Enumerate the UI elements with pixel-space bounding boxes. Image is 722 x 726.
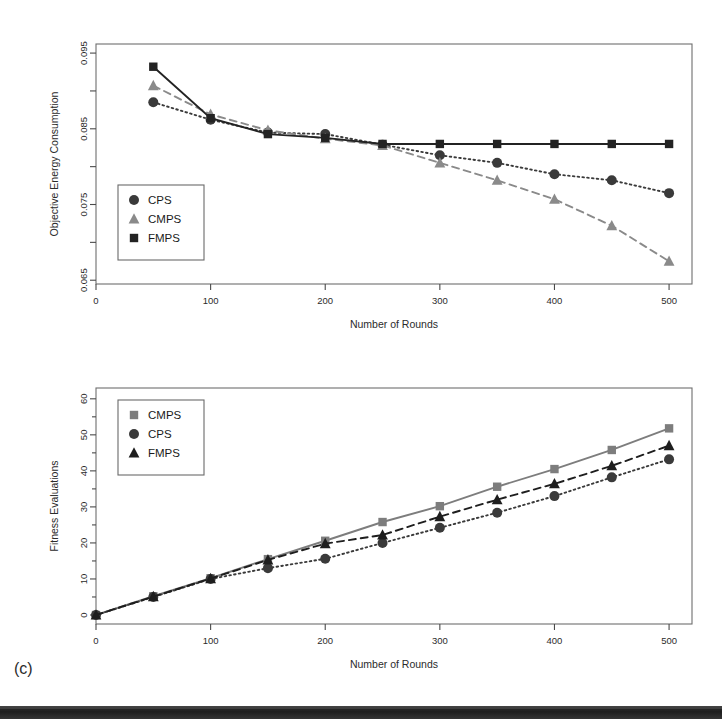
y-axis: 0.0650.0750.0850.095 xyxy=(79,41,97,292)
figure-caption: (c) xyxy=(14,660,33,678)
data-point-cmps xyxy=(664,255,675,265)
x-axis-tick-label: 400 xyxy=(547,295,563,306)
data-point-fmps xyxy=(493,140,501,148)
y-axis-tick-label: 50 xyxy=(79,430,90,441)
x-axis-title: Number of Rounds xyxy=(350,658,438,670)
data-point-cmps xyxy=(436,502,444,510)
data-point-cps xyxy=(549,169,559,179)
y-axis-title: Objective Energy Consumption xyxy=(48,91,60,236)
data-point-fmps xyxy=(436,140,444,148)
data-point-fmps xyxy=(550,140,558,148)
y-axis: 0102030405060 xyxy=(79,394,97,618)
x-axis-tick-label: 100 xyxy=(203,295,219,306)
figure-container: 0.0650.0750.0850.0950100200300400500Numb… xyxy=(0,0,722,726)
series-line-cps xyxy=(153,102,669,193)
y-axis-tick-label: 0.075 xyxy=(79,193,90,217)
series-line-cmps xyxy=(153,86,669,262)
chart-bottom-canvas: 01020304050600100200300400500Number of R… xyxy=(0,368,722,698)
x-axis-tick-label: 300 xyxy=(432,295,448,306)
x-axis-tick-label: 500 xyxy=(661,295,677,306)
data-point-cps xyxy=(664,454,674,464)
data-point-cmps xyxy=(493,483,501,491)
legend-label-cps: CPS xyxy=(148,194,172,206)
y-axis-tick-label: 60 xyxy=(79,394,90,405)
data-point-cps xyxy=(664,188,674,198)
y-axis-tick-label: 40 xyxy=(79,466,90,477)
y-axis-tick-label: 0.095 xyxy=(79,41,90,65)
legend-marker-cps xyxy=(129,429,139,439)
data-point-fmps xyxy=(321,134,329,142)
data-point-cmps xyxy=(665,424,673,432)
chart-top-canvas: 0.0650.0750.0850.0950100200300400500Numb… xyxy=(0,18,722,358)
data-point-cps xyxy=(607,472,617,482)
data-point-cps xyxy=(549,491,559,501)
x-axis-tick-label: 400 xyxy=(547,635,563,646)
data-point-fmps xyxy=(608,140,616,148)
x-axis-tick-label: 500 xyxy=(661,635,677,646)
data-point-fmps xyxy=(665,140,673,148)
data-point-cmps xyxy=(606,220,617,230)
legend-label-fmps: FMPS xyxy=(148,447,180,459)
legend-label-cmps: CMPS xyxy=(148,213,182,225)
legend-marker-fmps xyxy=(130,234,138,242)
legend-label-cps: CPS xyxy=(148,428,172,440)
x-axis-tick-label: 100 xyxy=(203,635,219,646)
legend-marker-cmps xyxy=(130,411,138,419)
data-point-cps xyxy=(320,554,330,564)
x-axis-title: Number of Rounds xyxy=(350,318,438,330)
chart-legend: CMPSCPSFMPS xyxy=(118,400,204,475)
x-axis-tick-label: 0 xyxy=(93,635,98,646)
data-point-cps xyxy=(607,175,617,185)
data-point-cps xyxy=(148,97,158,107)
y-axis-tick-label: 10 xyxy=(79,574,90,585)
series-line-fmps xyxy=(153,67,669,144)
data-point-cps xyxy=(435,523,445,533)
y-axis-title: Fitness Evaluations xyxy=(48,460,60,551)
y-axis-tick-label: 20 xyxy=(79,538,90,549)
series-fmps xyxy=(149,63,673,149)
data-point-fmps xyxy=(664,440,675,450)
data-point-cps xyxy=(492,508,502,518)
data-point-cps xyxy=(492,158,502,168)
data-point-fmps xyxy=(149,63,157,71)
legend-item-fmps[interactable]: FMPS xyxy=(130,232,180,244)
data-point-cmps xyxy=(550,465,558,473)
legend-label-fmps: FMPS xyxy=(148,232,180,244)
x-axis: 0100200300400500 xyxy=(93,624,677,646)
y-axis-tick-label: 30 xyxy=(79,502,90,513)
legend-marker-cps xyxy=(129,195,139,205)
series-cmps xyxy=(148,80,675,266)
chart-legend: CPSCMPSFMPS xyxy=(118,185,204,260)
x-axis-tick-label: 0 xyxy=(93,295,98,306)
x-axis-tick-label: 300 xyxy=(432,635,448,646)
y-axis-tick-label: 0.085 xyxy=(79,117,90,141)
series-cps xyxy=(148,97,674,198)
data-point-cmps xyxy=(608,446,616,454)
legend-item-cps[interactable]: CPS xyxy=(129,428,172,440)
data-point-cmps xyxy=(148,80,159,90)
data-point-fmps xyxy=(378,140,386,148)
legend-label-cmps: CMPS xyxy=(148,409,182,421)
data-point-fmps xyxy=(206,114,214,122)
x-axis: 0100200300400500 xyxy=(93,284,677,306)
legend-item-cps[interactable]: CPS xyxy=(129,194,172,206)
data-point-fmps xyxy=(264,130,272,138)
data-point-cps xyxy=(263,563,273,573)
x-axis-tick-label: 200 xyxy=(317,635,333,646)
chart-fitness-evaluations: 01020304050600100200300400500Number of R… xyxy=(0,368,722,698)
chart-objective-energy-consumption: 0.0650.0750.0850.0950100200300400500Numb… xyxy=(0,18,722,358)
scan-artifact-bar xyxy=(0,706,722,719)
data-point-cmps xyxy=(378,518,386,526)
y-axis-tick-label: 0 xyxy=(79,612,90,617)
y-axis-tick-label: 0.065 xyxy=(79,268,90,292)
x-axis-tick-label: 200 xyxy=(317,295,333,306)
